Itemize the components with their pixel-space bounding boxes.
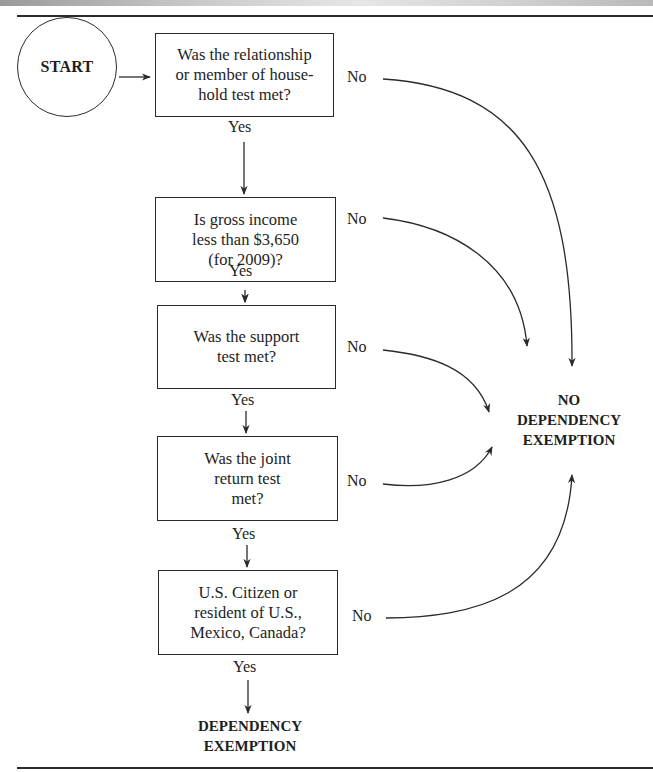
outcome-dependency-exemption: DEPENDENCY EXEMPTION <box>180 716 320 756</box>
decision-text: Was the support test met? <box>194 327 300 367</box>
bottom-divider <box>17 767 653 769</box>
no-label-q4: No <box>347 472 367 490</box>
arrow-no-q3 <box>383 350 489 412</box>
arrow-no-q2 <box>383 218 527 346</box>
start-node: START <box>17 17 117 117</box>
yes-label-q4: Yes <box>232 525 255 543</box>
decision-text: Is gross income less than $3,650 (for 20… <box>192 210 299 270</box>
no-label-q3: No <box>347 338 367 356</box>
no-label-q5: No <box>352 607 372 625</box>
yes-label-q2: Yes <box>229 262 252 280</box>
start-label: START <box>40 58 93 76</box>
no-label-q2: No <box>347 210 367 228</box>
no-label-q1: No <box>347 68 367 86</box>
arrow-no-q5 <box>386 475 572 618</box>
decision-text: Was the joint return test met? <box>204 449 291 509</box>
yes-label-q5: Yes <box>233 658 256 676</box>
arrow-no-q4 <box>383 447 492 486</box>
decision-text: Was the relationship or member of house-… <box>176 45 314 105</box>
decision-relationship-test: Was the relationship or member of house-… <box>155 33 334 117</box>
yes-label-q1: Yes <box>228 118 251 136</box>
outcome-no-dependency-exemption: NO DEPENDENCY EXEMPTION <box>494 390 644 450</box>
decision-citizenship-test: U.S. Citizen or resident of U.S., Mexico… <box>158 570 338 655</box>
decision-support-test: Was the support test met? <box>157 305 336 389</box>
decision-text: U.S. Citizen or resident of U.S., Mexico… <box>190 583 305 643</box>
yes-label-q3: Yes <box>231 391 254 409</box>
decision-joint-return-test: Was the joint return test met? <box>157 436 338 521</box>
